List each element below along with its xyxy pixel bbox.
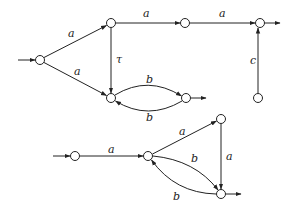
state-node: [36, 56, 45, 65]
edge-s5-s4: [116, 101, 183, 111]
edge-label: a: [226, 150, 233, 163]
state-node: [217, 190, 226, 199]
edge-label: τ: [116, 53, 123, 66]
edge-label: a: [108, 143, 115, 156]
automata-diagram: a a a a τ b b c a a a b b: [0, 0, 297, 211]
state-node: [181, 19, 190, 28]
edge-label: a: [219, 7, 226, 20]
edge-label: b: [146, 73, 153, 86]
edge-label: a: [68, 27, 75, 40]
state-node: [256, 19, 265, 28]
state-node: [107, 94, 116, 103]
automaton-1: a a a a τ b b c: [18, 7, 280, 124]
edge-label: b: [146, 111, 153, 124]
edge-label: c: [250, 54, 256, 67]
edge-s4-s5: [115, 85, 182, 96]
state-node: [182, 94, 191, 103]
edge-label: a: [179, 125, 186, 138]
state-node: [254, 94, 263, 103]
state-node: [217, 115, 226, 124]
state-node: [144, 152, 153, 161]
automaton-2: a a a b b: [53, 115, 241, 204]
edge-label: a: [74, 65, 81, 78]
state-node: [71, 152, 80, 161]
edge-s0-s1: [44, 26, 107, 58]
edge-label: b: [191, 152, 198, 165]
edge-label: b: [173, 190, 180, 203]
edge-label: a: [143, 7, 150, 20]
state-node: [107, 19, 116, 28]
